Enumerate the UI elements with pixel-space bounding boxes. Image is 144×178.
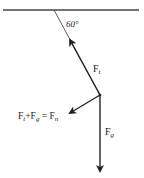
angle-label: 60° (66, 20, 79, 29)
resultant-equation-label: Ft+Fg = Fn (18, 112, 58, 123)
force-diagram: 60° Ft Fg Ft+Fg = Fn (0, 0, 144, 178)
gravity-label: Fg (105, 127, 114, 139)
junction-point (99, 94, 102, 97)
resultant-arrow (70, 95, 100, 113)
tension-label: Ft (93, 64, 101, 76)
